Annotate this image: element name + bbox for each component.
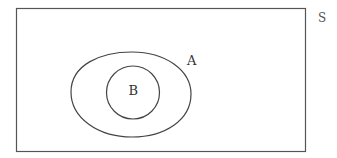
venn-diagram: S A B [0, 0, 337, 158]
universe-rectangle [17, 9, 306, 152]
universe-label: S [318, 11, 326, 25]
set-a-label: A [186, 53, 197, 68]
set-b-label: B [129, 83, 139, 98]
